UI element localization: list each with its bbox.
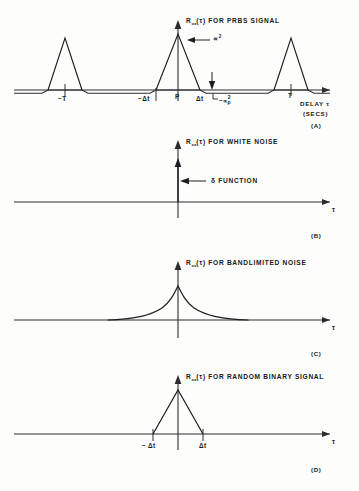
panel-a-triangle-minus-T: [48, 38, 82, 90]
panel-c-plot: [14, 261, 330, 338]
panel-a-tick-label-minus-delta-t: −Δt: [138, 95, 150, 102]
panel-a-offset-bracket: [213, 94, 218, 100]
panel-c-y-arrow: [175, 261, 182, 270]
panel-b-axis-symbol: τ: [332, 206, 335, 213]
panel-a-offset-arrow-head: [209, 81, 215, 90]
figure-canvas: [0, 0, 359, 491]
panel-c-id: (C): [311, 350, 321, 357]
panel-d-plot: [14, 375, 330, 450]
panel-d-id: (D): [311, 466, 321, 473]
panel-c-x-arrow: [322, 317, 330, 323]
panel-d-tick-label-plus-delta-t: Δt: [199, 442, 207, 449]
panel-d-axis-symbol: τ: [332, 438, 335, 445]
panel-c-axis-symbol: τ: [332, 324, 335, 331]
panel-a-plot: [14, 20, 330, 101]
panel-b-delta-annotation: δ FUNCTION: [211, 177, 258, 184]
panel-a-offset-label: −∝2p: [219, 95, 231, 105]
panel-b-plot: [14, 140, 330, 218]
panel-d-y-arrow: [175, 375, 182, 384]
panel-a-axis-label-line1: DELAY τ: [300, 100, 330, 107]
panel-a-id: (A): [311, 122, 321, 129]
panel-a-triangle-plus-T: [274, 38, 308, 90]
panel-a-peak-arrow-head: [187, 37, 195, 43]
panel-d-x-arrow: [322, 431, 330, 437]
panel-a-tick-label-minus-T: −T: [58, 95, 66, 102]
panel-a-tick-label-plus-delta-t: Δt: [196, 95, 204, 102]
panel-b-y-arrow: [175, 140, 182, 149]
panel-a-tick-label-origin: P: [175, 93, 180, 100]
panel-b-id: (B): [311, 232, 321, 239]
panel-d-tick-label-minus-delta-t: − Δt: [142, 442, 156, 449]
panel-b-x-arrow: [322, 199, 330, 205]
panel-c-title: Rxx(τ) FOR BANDLIMITED NOISE: [186, 259, 307, 268]
panel-a-peak-label: ∝2: [213, 34, 221, 43]
panel-a-axis-label-line2: (SECS): [303, 110, 328, 117]
panel-a-tick-label-plus-T: T: [288, 92, 292, 99]
panel-a-offset-denominator: p: [228, 100, 231, 105]
panel-a-y-arrow: [175, 20, 182, 29]
panel-b-delta-impulse-head: [175, 158, 182, 167]
panel-a-offset-baseline: [14, 90, 330, 93]
panel-b-annotation-arrow-head: [180, 178, 189, 184]
panel-b-title: Rxx(τ) FOR WHITE NOISE: [186, 138, 278, 147]
panel-d-title: Rxx(τ) FOR RANDOM BINARY SIGNAL: [186, 373, 324, 382]
panel-a-x-arrow: [322, 87, 330, 93]
panel-a-title: Rxx(τ) FOR PRBS SIGNAL: [186, 17, 280, 26]
